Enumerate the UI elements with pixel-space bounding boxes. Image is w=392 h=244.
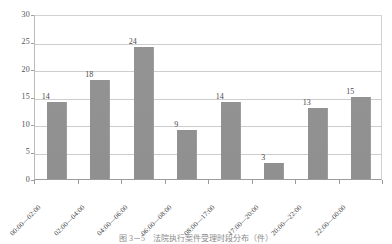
bar xyxy=(47,102,67,179)
y-axis-tick-label: 0 xyxy=(4,176,30,184)
gridline xyxy=(35,126,381,127)
gridline xyxy=(35,99,381,100)
x-axis-tick-mark xyxy=(208,180,209,184)
bar xyxy=(177,130,197,180)
gridline xyxy=(35,44,381,45)
bar xyxy=(134,47,154,179)
x-axis-tick-mark xyxy=(339,180,340,184)
bar-value-label: 15 xyxy=(340,88,360,96)
y-axis-tick-label: 5 xyxy=(4,148,30,156)
y-axis-tick-label: 20 xyxy=(4,66,30,74)
y-axis-tick-label: 25 xyxy=(4,38,30,46)
bar-value-label: 24 xyxy=(123,38,143,46)
x-axis-tick-mark xyxy=(165,180,166,184)
bar-chart-figure: 30 25 20 15 10 5 0 14 18 24 9 14 3 13 15 xyxy=(0,0,392,244)
figure-caption: 图 3－5 法院执行案件受理时段分布（件） xyxy=(0,234,392,244)
gridline xyxy=(35,154,381,155)
bar-value-label: 3 xyxy=(253,154,273,162)
bar-value-label: 18 xyxy=(79,71,99,79)
y-axis-tick-label: 30 xyxy=(4,11,30,19)
x-axis-tick-mark xyxy=(382,180,383,184)
bar xyxy=(351,97,371,180)
x-axis-tick-mark xyxy=(295,180,296,184)
y-axis-tick-label: 10 xyxy=(4,121,30,129)
plot-area xyxy=(34,15,382,180)
x-axis-tick-mark xyxy=(78,180,79,184)
bar xyxy=(308,108,328,180)
bar xyxy=(264,163,284,180)
bar-value-label: 14 xyxy=(36,93,56,101)
bar-value-label: 9 xyxy=(166,121,186,129)
bar-value-label: 14 xyxy=(210,93,230,101)
x-axis-tick-mark xyxy=(121,180,122,184)
y-axis-tick-label: 15 xyxy=(4,93,30,101)
x-axis-tick-mark xyxy=(252,180,253,184)
bar-value-label: 13 xyxy=(297,99,317,107)
bar xyxy=(221,102,241,179)
x-axis-tick-label: 22:00—00:00 xyxy=(314,186,365,237)
bar xyxy=(90,80,110,179)
x-axis-tick-mark xyxy=(34,180,35,184)
